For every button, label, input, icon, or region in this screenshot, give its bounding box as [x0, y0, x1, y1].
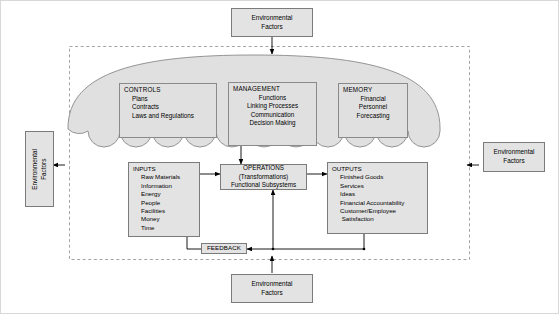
env-factors-bottom-text: Environmental Factors	[252, 280, 293, 297]
operations-title: OPERATIONS	[243, 164, 284, 173]
memory-header: MEMORY	[343, 86, 403, 95]
panel-management: MANAGEMENT Functions Linking Processes C…	[228, 82, 317, 146]
list-item: People	[133, 199, 195, 207]
list-item: Ideas	[332, 190, 423, 198]
feedback-label: FEEDBACK	[207, 244, 241, 252]
list-item: Satisfaction	[332, 215, 423, 223]
operations-subtitle: (Transformations)	[239, 173, 288, 182]
env-left-line1: Environmental	[31, 149, 38, 190]
list-item: Forecasting	[343, 112, 403, 121]
env-factors-bottom: Environmental Factors	[231, 274, 313, 303]
outputs-header: OUTPUTS	[332, 165, 423, 173]
list-item: Decision Making	[233, 119, 312, 128]
list-item: Raw Materials	[133, 173, 195, 181]
list-item: Laws and Regulations	[124, 112, 212, 121]
list-item: Linking Processes	[233, 102, 312, 111]
panel-controls: CONTROLS Plans Contracts Laws and Regula…	[119, 83, 217, 138]
panel-memory: MEMORY Financial Personnel Forecasting	[338, 83, 408, 138]
list-item: Money	[133, 215, 195, 223]
list-item: Financial Accountability	[332, 199, 423, 207]
list-item: Services	[332, 182, 423, 190]
env-bottom-line2: Factors	[252, 289, 293, 298]
diagram-canvas: Environmental Factors Environmental Fact…	[0, 0, 559, 314]
box-inputs: INPUTS Raw Materials Information Energy …	[128, 162, 200, 237]
list-item: Facilities	[133, 207, 195, 215]
env-left-line2: Factors	[40, 149, 49, 190]
list-item: Customer/Employee	[332, 207, 423, 215]
list-item: Financial	[343, 95, 403, 104]
env-top-line2: Factors	[252, 23, 293, 32]
env-bottom-line1: Environmental	[252, 280, 293, 289]
management-header: MANAGEMENT	[233, 85, 312, 94]
env-factors-right-text: Environmental Factors	[494, 148, 535, 165]
env-factors-left-text: Environmental Factors	[31, 149, 48, 190]
box-operations: OPERATIONS (Transformations) Functional …	[220, 164, 307, 190]
env-factors-top: Environmental Factors	[231, 8, 313, 37]
controls-list: Plans Contracts Laws and Regulations	[124, 95, 212, 121]
list-item: Energy	[133, 190, 195, 198]
box-outputs: OUTPUTS Finished Goods Services Ideas Fi…	[327, 162, 428, 234]
list-item: Time	[133, 224, 195, 232]
memory-list: Financial Personnel Forecasting	[343, 95, 403, 121]
env-right-line1: Environmental	[494, 148, 535, 157]
inputs-header: INPUTS	[133, 165, 195, 173]
list-item: Personnel	[343, 103, 403, 112]
outputs-list: Finished Goods Services Ideas Financial …	[332, 173, 423, 223]
inputs-list: Raw Materials Information Energy People …	[133, 173, 195, 232]
list-item: Information	[133, 182, 195, 190]
env-factors-left: Environmental Factors	[25, 131, 54, 207]
operations-detail: Functional Subsystems	[231, 181, 296, 190]
list-item: Functions	[233, 94, 312, 103]
management-list: Functions Linking Processes Communicatio…	[233, 94, 312, 128]
list-item: Finished Goods	[332, 173, 423, 181]
env-top-line1: Environmental	[252, 14, 293, 23]
env-factors-right: Environmental Factors	[483, 142, 545, 172]
list-item: Plans	[124, 95, 212, 104]
env-right-line2: Factors	[494, 157, 535, 166]
controls-header: CONTROLS	[124, 86, 212, 95]
list-item: Communication	[233, 111, 312, 120]
env-factors-top-text: Environmental Factors	[252, 14, 293, 31]
box-feedback: FEEDBACK	[201, 243, 247, 254]
list-item: Contracts	[124, 103, 212, 112]
